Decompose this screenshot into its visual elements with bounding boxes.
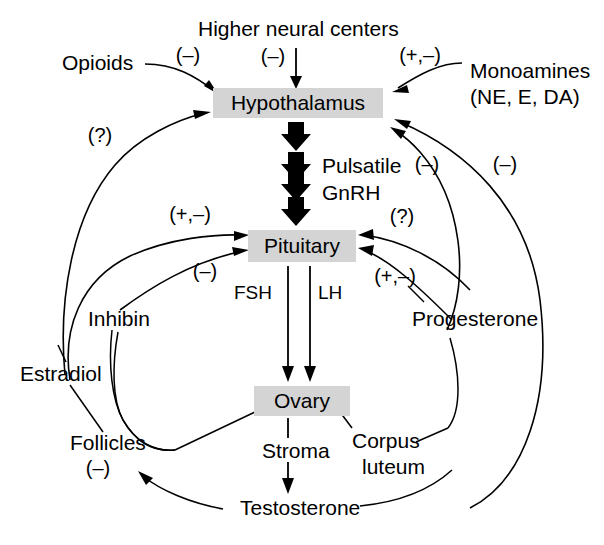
label-stroma: Stroma bbox=[262, 439, 330, 462]
node-hypothalamus: Hypothalamus bbox=[213, 88, 383, 118]
sign-progesterone-to-pituitary-upper: (?) bbox=[390, 205, 414, 227]
connector-lh bbox=[304, 266, 316, 382]
label-monoamines: Monoamines bbox=[470, 59, 590, 82]
connector-monoamines-to-hypothalamus bbox=[392, 63, 462, 93]
leader-estradiol-to-follicles bbox=[70, 385, 103, 432]
pulsatile-gnrh-block-arrows bbox=[281, 122, 311, 226]
sign-monoamines-to-hypothalamus: (+,–) bbox=[399, 44, 441, 66]
node-hypothalamus-label: Hypothalamus bbox=[231, 91, 365, 114]
sign-higher-centers-to-hypothalamus: (–) bbox=[261, 45, 285, 67]
label-estradiol: Estradiol bbox=[20, 362, 102, 385]
node-pituitary-label: Pituitary bbox=[264, 234, 340, 257]
connector-inhibin-to-pituitary bbox=[120, 247, 249, 310]
connector-opioids-to-hypothalamus bbox=[145, 64, 218, 94]
label-lh: LH bbox=[318, 282, 342, 303]
sign-testosterone-to-hypothalamus: (–) bbox=[493, 153, 517, 175]
label-inhibin: Inhibin bbox=[88, 307, 150, 330]
connector-stroma-to-testosterone bbox=[282, 462, 294, 494]
node-ovary: Ovary bbox=[254, 386, 350, 416]
sign-follicles: (–) bbox=[86, 457, 110, 479]
leader-progesterone-up bbox=[408, 286, 424, 302]
label-opioids: Opioids bbox=[62, 51, 133, 74]
connector-testosterone-to-follicles bbox=[138, 471, 223, 509]
node-pituitary: Pituitary bbox=[248, 230, 356, 262]
connector-estradiol-to-pituitary bbox=[68, 231, 249, 380]
connector-higher-centers-to-hypothalamus bbox=[290, 48, 302, 89]
sign-inhibin-to-pituitary: (–) bbox=[193, 260, 217, 282]
sign-progesterone-to-hypothalamus: (–) bbox=[415, 153, 439, 175]
sign-estradiol-to-hypothalamus: (?) bbox=[88, 124, 112, 146]
label-gnrh: GnRH bbox=[322, 181, 380, 204]
sign-estradiol-to-pituitary: (+,–) bbox=[169, 203, 211, 225]
label-corpus: Corpus bbox=[352, 429, 420, 452]
sign-progesterone-to-pituitary-lower: (+,–) bbox=[374, 265, 416, 287]
leader-estradiol-up bbox=[58, 345, 66, 362]
label-luteum: luteum bbox=[362, 455, 425, 478]
sign-opioids-to-hypothalamus: (–) bbox=[176, 44, 200, 66]
connector-fsh bbox=[282, 266, 294, 382]
label-higher-neural-centers: Higher neural centers bbox=[198, 17, 399, 40]
label-pulsatile: Pulsatile bbox=[322, 154, 401, 177]
leader-corpus-luteum-to-progesterone bbox=[416, 338, 458, 442]
diagram-canvas: Hypothalamus Pituitary Ovary Higher neur… bbox=[0, 0, 604, 545]
diagram-root: Hypothalamus Pituitary Ovary Higher neur… bbox=[0, 0, 604, 545]
label-progesterone: Progesterone bbox=[412, 307, 538, 330]
label-follicles: Follicles bbox=[70, 431, 146, 454]
label-fsh: FSH bbox=[234, 282, 272, 303]
label-monoamines-detail: (NE, E, DA) bbox=[470, 85, 580, 108]
label-testosterone: Testosterone bbox=[240, 496, 360, 519]
connector-estradiol-to-hypothalamus bbox=[63, 110, 211, 375]
node-ovary-label: Ovary bbox=[274, 389, 331, 412]
